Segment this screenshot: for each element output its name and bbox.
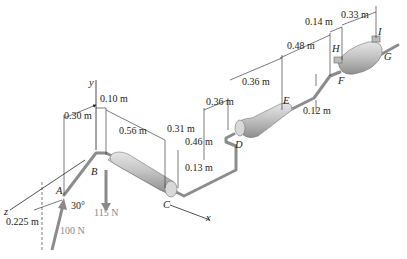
dim-0.31m: 0.31 m xyxy=(167,124,195,134)
dim-0.33m: 0.33 m xyxy=(341,10,369,20)
dim-0.14m: 0.14 m xyxy=(305,17,333,27)
axis-label-y: y xyxy=(89,78,94,89)
dim-0.12m: 0.12 m xyxy=(303,106,331,116)
muffler-2 xyxy=(235,103,292,138)
weight-force-label: 115 N xyxy=(94,208,118,218)
dim-0.10m: 0.10 m xyxy=(100,94,128,104)
dim-0.46m: 0.46 m xyxy=(185,137,213,147)
dim-0.48m: 0.48 m xyxy=(287,41,315,51)
point-A: A xyxy=(56,186,62,197)
x-axis xyxy=(170,205,210,220)
point-E: E xyxy=(283,96,289,107)
point-D: D xyxy=(235,140,243,151)
dim-0.36m-b: 0.36 m xyxy=(242,77,270,87)
exhaust-diagram xyxy=(0,0,407,259)
point-H: H xyxy=(332,44,340,55)
point-C: C xyxy=(163,200,170,211)
axis-label-x: x xyxy=(206,213,211,224)
dim-0.30m: 0.30 m xyxy=(64,111,92,121)
point-F: F xyxy=(338,76,344,87)
point-G: G xyxy=(384,52,392,63)
dim-0.56m: 0.56 m xyxy=(119,126,147,136)
dimension-lines xyxy=(34,6,376,250)
point-B: B xyxy=(91,167,97,178)
converter xyxy=(334,36,382,74)
dim-0.13m: 0.13 m xyxy=(185,163,213,173)
applied-force-label: 100 N xyxy=(60,226,85,236)
dim-0.36m-a: 0.36 m xyxy=(206,97,234,107)
muffler-1 xyxy=(108,152,177,197)
point-I: I xyxy=(378,27,382,38)
dim-0.225m: 0.225 m xyxy=(6,217,39,227)
angle-label: 30° xyxy=(71,201,85,211)
